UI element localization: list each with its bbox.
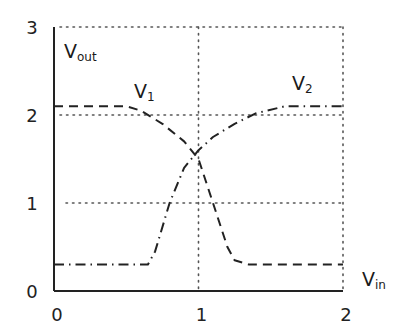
series-label-v1: V1 <box>134 80 155 104</box>
x-tick-label: 2 <box>340 304 351 325</box>
transfer-characteristic-chart: 0123012 <box>0 0 413 333</box>
series-label-v2: V2 <box>292 72 313 96</box>
x-axis-label-sub: in <box>375 278 386 292</box>
y-tick-label: 2 <box>26 105 37 126</box>
x-tick-label: 0 <box>51 304 62 325</box>
x-axis-label: Vin <box>362 268 386 292</box>
y-axis-label-main: V <box>64 40 77 62</box>
y-axis-label: Vout <box>64 40 97 64</box>
v2-label-sub: 2 <box>305 82 313 96</box>
y-tick-label: 3 <box>26 17 37 38</box>
x-tick-label: 1 <box>196 304 207 325</box>
y-axis-label-sub: out <box>77 50 97 64</box>
v1-label-sub: 1 <box>147 90 155 104</box>
y-tick-label: 1 <box>26 193 37 214</box>
y-tick-label: 0 <box>26 281 37 302</box>
v2-label-main: V <box>292 72 305 94</box>
x-axis-label-main: V <box>362 268 375 290</box>
v1-label-main: V <box>134 80 147 102</box>
